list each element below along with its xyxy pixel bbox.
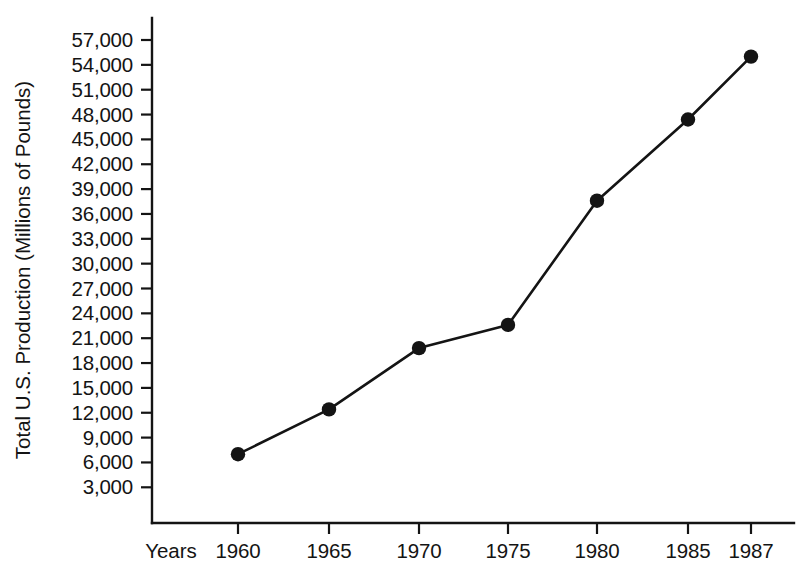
x-axis-tick-label: 1987 (729, 539, 774, 562)
line-chart-figure: 3,0006,0009,00012,00015,00018,00021,0002… (0, 0, 802, 585)
chart-canvas: 3,0006,0009,00012,00015,00018,00021,0002… (0, 0, 802, 585)
y-axis-tick-label: 51,000 (71, 78, 133, 101)
y-axis-tick-label: 15,000 (71, 376, 133, 399)
x-axis-tick-label: 1975 (486, 539, 531, 562)
y-axis-tick-label: 6,000 (83, 450, 133, 473)
y-axis-tick-label: 57,000 (71, 28, 133, 51)
chart-page: 3,0006,0009,00012,00015,00018,00021,0002… (0, 0, 802, 585)
y-axis-tick-label: 48,000 (71, 103, 133, 126)
data-point-marker (501, 318, 515, 332)
y-axis-title: Total U.S. Production (Millions of Pound… (11, 81, 34, 459)
y-axis-tick-label: 39,000 (71, 177, 133, 200)
y-axis-tick-label: 27,000 (71, 277, 133, 300)
y-axis-tick-label: 30,000 (71, 252, 133, 275)
y-axis-tick-label: 42,000 (71, 152, 133, 175)
x-axis-tick-label: 1965 (307, 539, 352, 562)
data-point-marker (231, 447, 245, 461)
data-point-marker (744, 49, 758, 63)
y-axis-tick-label: 9,000 (83, 426, 133, 449)
x-axis-tick-label: 1985 (666, 539, 711, 562)
y-axis-tick-label: 33,000 (71, 227, 133, 250)
y-axis-tick-label: 45,000 (71, 127, 133, 150)
y-axis-tick-label: 18,000 (71, 351, 133, 374)
data-point-marker (590, 194, 604, 208)
y-axis-tick-label: 54,000 (71, 53, 133, 76)
x-axis-title: Years (145, 539, 197, 562)
y-axis-tick-label: 24,000 (71, 301, 133, 324)
x-axis-tick-label: 1970 (397, 539, 442, 562)
y-axis-tick-label: 21,000 (71, 326, 133, 349)
x-axis-tick-label: 1960 (216, 539, 261, 562)
data-point-marker (412, 341, 426, 355)
data-point-marker (681, 112, 695, 126)
y-axis-tick-label: 3,000 (83, 475, 133, 498)
data-point-marker (322, 402, 336, 416)
y-axis-tick-label: 36,000 (71, 202, 133, 225)
y-axis-tick-label: 12,000 (71, 401, 133, 424)
x-axis-tick-label: 1980 (575, 539, 620, 562)
